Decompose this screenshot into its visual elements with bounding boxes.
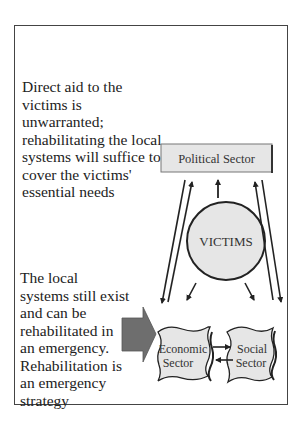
- victims-node: VICTIMS: [187, 202, 265, 280]
- economic-sector-label-line1: Economic: [159, 342, 208, 356]
- economic-sector-label-line2: Sector: [163, 356, 194, 370]
- political-sector-label: Political Sector: [178, 152, 256, 166]
- economic-sector-node: Economic Sector: [158, 327, 213, 381]
- social-sector-label-line1: Social: [237, 342, 268, 356]
- arrow-victims-to-social: [245, 283, 254, 300]
- social-sector-label-line2: Sector: [236, 356, 267, 370]
- social-sector-node: Social Sector: [227, 327, 276, 382]
- victims-label: VICTIMS: [199, 234, 252, 249]
- arrow-victims-to-economic: [187, 283, 196, 300]
- relationship-diagram: Political Sector VICTIMS Economic Sector…: [0, 0, 302, 436]
- pointer-arrow-icon: [122, 307, 156, 362]
- political-sector-node: Political Sector: [161, 144, 272, 173]
- arrow-political-to-economic: [162, 180, 185, 303]
